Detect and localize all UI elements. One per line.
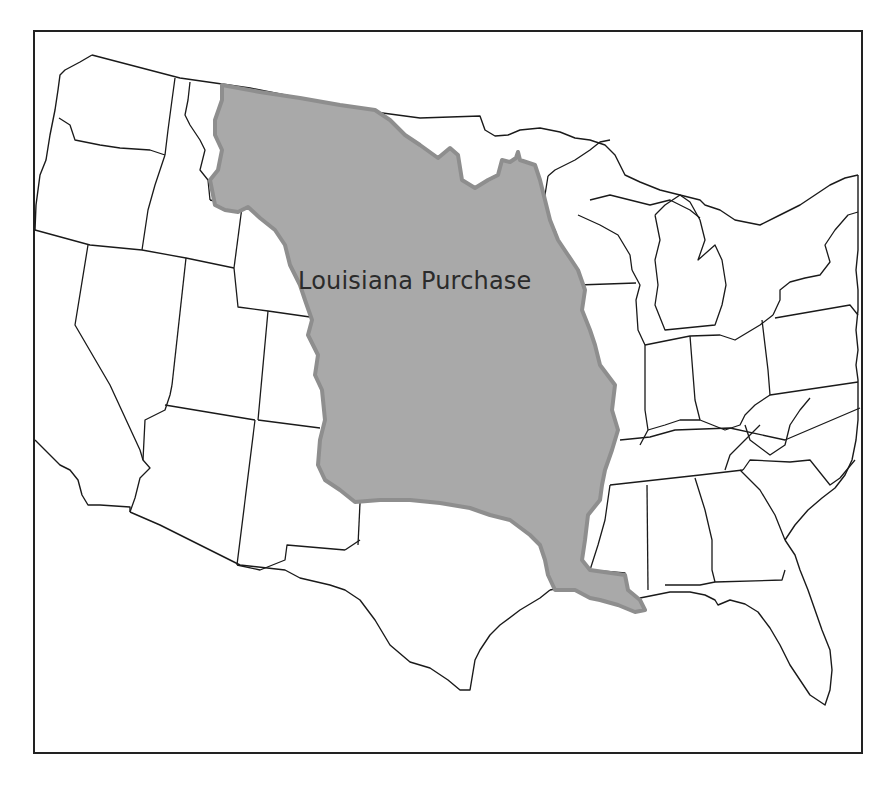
louisiana-purchase-region xyxy=(210,85,645,612)
us-map xyxy=(0,0,892,787)
louisiana-purchase-label: Louisiana Purchase xyxy=(298,267,532,295)
